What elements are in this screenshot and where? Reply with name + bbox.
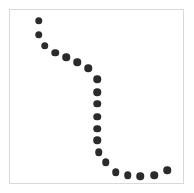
data-point — [52, 49, 60, 57]
scatter-chart — [0, 0, 194, 193]
data-point — [74, 59, 82, 67]
data-point — [93, 88, 101, 96]
plot-area — [10, 10, 183, 183]
data-point — [93, 125, 101, 133]
data-point — [93, 137, 101, 145]
data-point — [112, 168, 120, 176]
data-point — [137, 172, 145, 180]
data-point — [63, 54, 71, 62]
data-point — [93, 100, 101, 108]
data-point — [41, 42, 49, 50]
data-point — [93, 75, 101, 83]
data-point — [95, 149, 103, 157]
data-point — [151, 171, 159, 179]
data-point — [124, 171, 132, 179]
data-point — [84, 65, 92, 73]
data-point — [35, 17, 43, 25]
data-point — [93, 113, 101, 121]
data-point — [35, 31, 43, 39]
data-point — [164, 166, 172, 174]
plot-frame — [9, 9, 184, 184]
data-point — [102, 158, 110, 166]
